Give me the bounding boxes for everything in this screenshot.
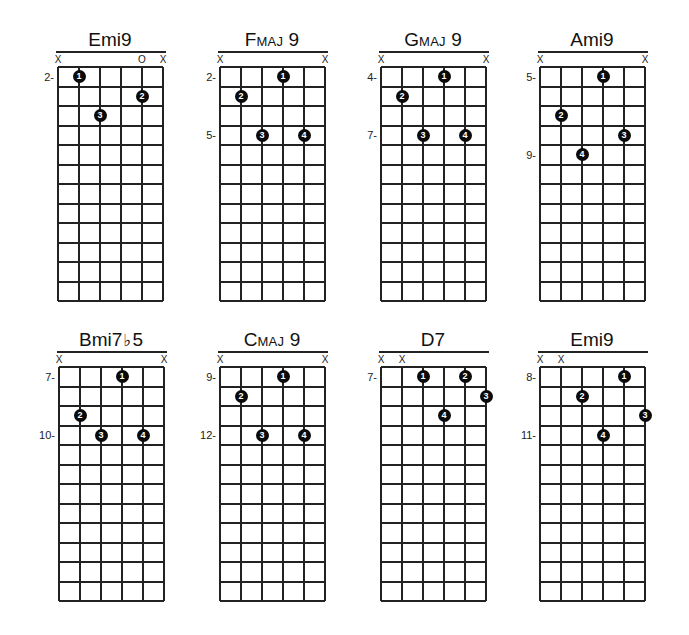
fret-line [381, 483, 486, 485]
finger-dot: 4 [298, 429, 311, 442]
fret-number-label: 8- [506, 371, 536, 383]
fret-line [58, 144, 163, 146]
fretboard-grid: 2-123 [58, 67, 163, 301]
muted-string-marker: X [54, 355, 64, 365]
title-underline [218, 51, 328, 53]
fret-line [381, 144, 486, 146]
chord-title: D7 [377, 330, 489, 350]
finger-dot: 4 [137, 429, 150, 442]
muted-string-marker: X [158, 55, 168, 65]
fret-line [59, 522, 164, 524]
fret-line [220, 281, 325, 283]
fret-number-label: 4- [347, 71, 377, 83]
fret-line [58, 300, 163, 302]
fret-line [220, 405, 325, 407]
fret-line [58, 203, 163, 205]
chord-title-smallcaps: MAJ [257, 334, 284, 349]
muted-string-marker: X [320, 55, 330, 65]
title-underline [379, 51, 489, 53]
fret-line [540, 86, 645, 88]
fret-line [220, 86, 325, 88]
fret-line [540, 366, 645, 368]
title-underline [538, 51, 648, 53]
fretboard-grid: 9-12-1234 [220, 367, 325, 601]
fret-line [58, 105, 163, 107]
fretboard-grid: 7-10-1234 [59, 367, 164, 601]
fret-line [220, 464, 325, 466]
fret-line [381, 581, 486, 583]
fret-line [220, 164, 325, 166]
fret-line [58, 183, 163, 185]
muted-string-marker: X [535, 355, 545, 365]
muted-string-marker: X [535, 55, 545, 65]
fret-line [381, 386, 486, 388]
fret-line [540, 581, 645, 583]
fretboard-grid: 7-1234 [381, 367, 486, 601]
fret-line [540, 464, 645, 466]
fret-number-label: 5- [506, 71, 536, 83]
fretboard-grid: 4-7-1234 [381, 67, 486, 301]
finger-dot: 4 [298, 129, 311, 142]
fret-line [58, 281, 163, 283]
fret-number-label: 2- [24, 71, 54, 83]
finger-dot: 1 [417, 370, 430, 383]
chord-diagram-emi9-2: Emi9XX8-11-1234 [540, 330, 689, 630]
fret-line [540, 542, 645, 544]
muted-string-marker: X [397, 355, 407, 365]
fret-line [220, 300, 325, 302]
chord-title-main: Ami9 [570, 29, 613, 50]
fret-line [540, 125, 645, 127]
fret-number-label: 9- [506, 149, 536, 161]
fret-line [58, 66, 163, 68]
fret-number-label: 7- [25, 371, 55, 383]
fret-line [540, 281, 645, 283]
finger-dot: 1 [277, 70, 290, 83]
chord-title: Bmi7♭5 [55, 330, 167, 350]
finger-dot: 2 [74, 409, 87, 422]
fret-line [381, 522, 486, 524]
fret-line [381, 425, 486, 427]
fret-line [220, 144, 325, 146]
fret-line [381, 222, 486, 224]
chord-title-smallcaps: MAJ [256, 34, 283, 49]
fret-line [540, 503, 645, 505]
fret-number-label: 11- [506, 429, 536, 441]
fret-line [220, 242, 325, 244]
fret-number-label: 9- [186, 371, 216, 383]
fret-line [381, 281, 486, 283]
fret-line [381, 203, 486, 205]
fret-line [59, 444, 164, 446]
finger-dot: 3 [618, 129, 631, 142]
finger-dot: 1 [597, 70, 610, 83]
finger-dot: 2 [576, 390, 589, 403]
fret-line [220, 125, 325, 127]
fret-line [220, 366, 325, 368]
title-underline [218, 351, 328, 353]
fret-line [540, 66, 645, 68]
fret-line [220, 386, 325, 388]
finger-dot: 3 [480, 390, 493, 403]
fret-line [381, 600, 486, 602]
fret-line [220, 503, 325, 505]
chord-title: FMAJ 9 [216, 30, 328, 50]
fret-line [59, 503, 164, 505]
chord-title-main: D7 [421, 329, 445, 350]
chord-title: GMAJ 9 [377, 30, 489, 50]
fret-number-label: 2- [186, 71, 216, 83]
fret-line [540, 222, 645, 224]
fret-line [58, 261, 163, 263]
fret-line [381, 242, 486, 244]
fret-line [381, 503, 486, 505]
finger-dot: 3 [256, 429, 269, 442]
fret-line [540, 183, 645, 185]
fret-line [381, 105, 486, 107]
finger-dot: 4 [597, 429, 610, 442]
finger-dot: 4 [438, 409, 451, 422]
fret-line [381, 164, 486, 166]
muted-string-marker: X [215, 55, 225, 65]
chord-title-smallcaps: MAJ [419, 34, 446, 49]
fret-line [381, 261, 486, 263]
fret-line [58, 242, 163, 244]
fret-number-label: 10- [25, 429, 55, 441]
finger-dot: 3 [94, 109, 107, 122]
